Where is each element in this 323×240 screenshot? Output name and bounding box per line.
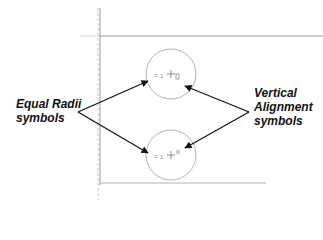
vertical-alignment-label-line3: symbols <box>254 114 313 128</box>
vertical-alignment-label-line1: Vertical <box>254 86 313 100</box>
vertical-alignment-label-line2: Alignment <box>254 100 313 114</box>
equal-radii-label-line2: symbols <box>16 111 81 125</box>
svg-text:1: 1 <box>160 73 164 79</box>
equal-radii-icon[interactable]: = 1 <box>153 151 164 161</box>
arrow-to-upper-equal <box>78 81 148 112</box>
upper-center-point <box>167 70 175 78</box>
svg-text:=: = <box>153 151 158 161</box>
svg-text:1: 1 <box>160 154 164 160</box>
arrow-to-lower-equal <box>78 112 148 153</box>
svg-text:=: = <box>153 70 158 80</box>
lower-center-point <box>167 151 175 159</box>
arrow-to-upper-vertical <box>185 86 249 112</box>
arrow-to-lower-vertical <box>185 112 249 148</box>
equal-radii-label-line1: Equal Radii <box>16 97 81 111</box>
vertical-alignment-icon[interactable] <box>176 74 179 79</box>
equal-radii-label: Equal Radii symbols <box>16 97 81 125</box>
equal-radii-icon[interactable]: = 1 <box>153 70 164 80</box>
vertical-alignment-icon[interactable] <box>177 150 179 154</box>
vertical-alignment-label: Vertical Alignment symbols <box>254 86 313 128</box>
